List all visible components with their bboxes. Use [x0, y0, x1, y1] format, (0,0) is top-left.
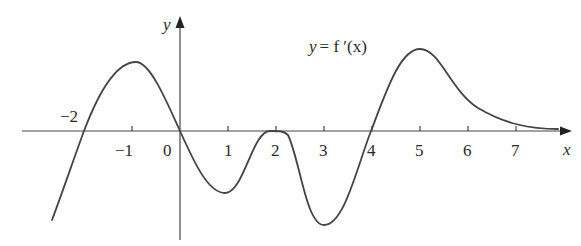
function-label: y= f ′(x) — [307, 37, 367, 56]
tick-label-1: 1 — [224, 141, 233, 160]
function-label-y: y — [307, 37, 317, 56]
tick-label-7: 7 — [511, 141, 520, 160]
function-label-eq: = f ′(x) — [320, 37, 367, 56]
tick-label-4: 4 — [367, 141, 376, 160]
x-axis-arrow-icon — [560, 127, 572, 136]
y-axis-arrow-icon — [176, 16, 185, 28]
label-neg2: −2 — [60, 107, 78, 126]
derivative-curve — [52, 49, 558, 225]
x-ticks — [132, 126, 516, 131]
label-origin: 0 — [163, 141, 172, 160]
tick-label-2: 2 — [271, 141, 280, 160]
tick-label-neg1: −1 — [115, 141, 133, 160]
tick-label-6: 6 — [463, 141, 472, 160]
x-axis-label: x — [562, 140, 571, 159]
tick-label-3: 3 — [319, 141, 328, 160]
y-axis-label: y — [161, 15, 171, 34]
tick-label-5: 5 — [415, 141, 424, 160]
chart: y x y= f ′(x) −2 0 −1 1 2 3 4 5 6 7 — [0, 0, 581, 246]
